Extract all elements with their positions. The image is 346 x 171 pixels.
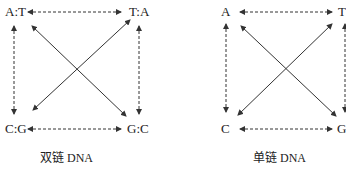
node-gc: G:C (127, 122, 149, 136)
node-ta: T:A (129, 5, 149, 19)
single-strand-caption: 单链 DNA (253, 151, 306, 165)
node-c: C (221, 122, 230, 136)
node-at: A:T (5, 5, 26, 19)
node-g: G (337, 122, 346, 136)
node-a: A (221, 5, 230, 19)
double-strand-arrows (14, 12, 139, 129)
node-t: T (338, 5, 346, 19)
arrows-layer (0, 0, 346, 171)
single-strand-arrows (226, 12, 345, 129)
double-strand-caption: 双链 DNA (40, 151, 93, 165)
node-cg: C:G (5, 122, 27, 136)
